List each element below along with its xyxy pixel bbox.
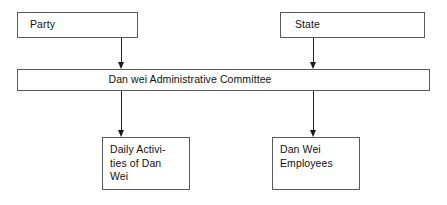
arrow-shaft [313,38,314,64]
arrow-shaft [121,91,122,132]
node-employees-label: Dan Wei Employees [280,143,358,170]
node-committee-label: Dan wei Administrative Committee [17,73,363,87]
arrow-head-down-icon [310,62,316,69]
arrow-head-down-icon [310,130,316,137]
node-daily-activities-label: Daily Activi- ties of Dan Wei [110,143,186,184]
arrow-shaft [313,91,314,132]
arrow-shaft [121,38,122,64]
node-party-label: Party [30,18,55,32]
node-state-label: State [295,18,320,32]
arrow-head-down-icon [118,62,124,69]
diagram-canvas: Party State Dan wei Administrative Commi… [0,0,447,205]
arrow-head-down-icon [118,130,124,137]
